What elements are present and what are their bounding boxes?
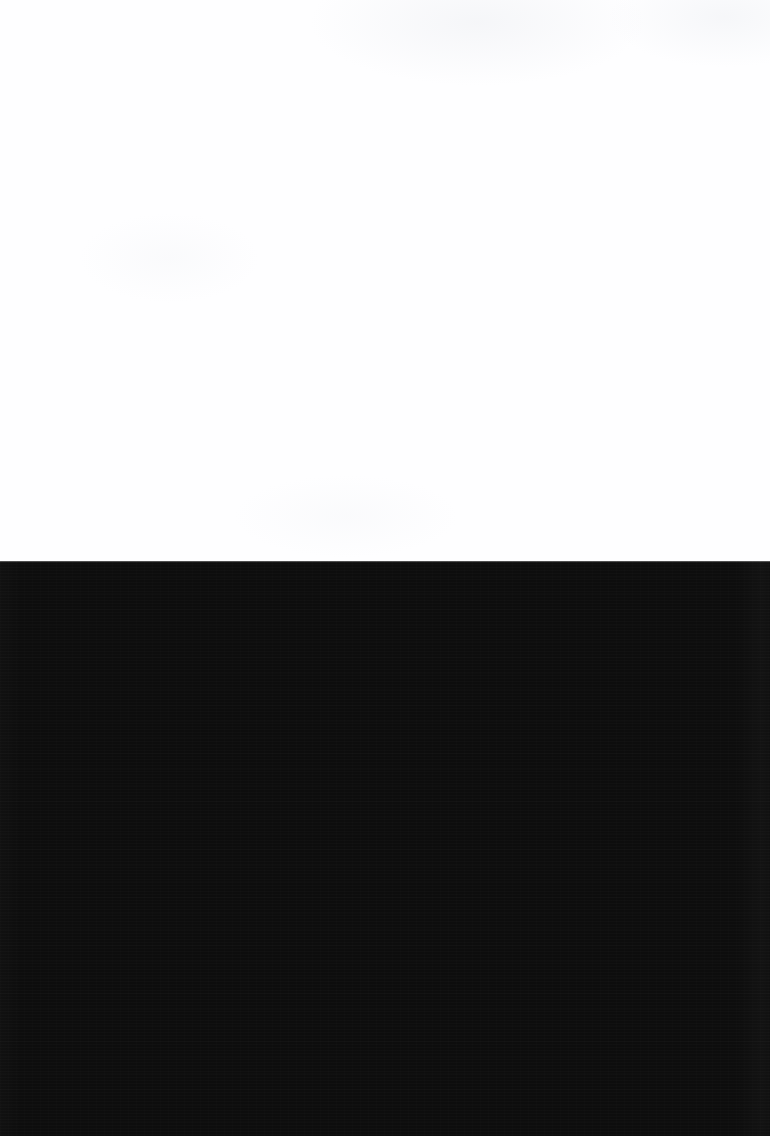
screen-capture-root [0, 0, 770, 1136]
blank-white-content-area[interactable] [0, 0, 770, 561]
blank-dark-viewport[interactable] [0, 561, 770, 1136]
